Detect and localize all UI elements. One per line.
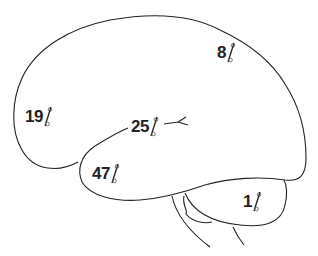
lateral-sulcus [164,117,188,125]
percent-icon [149,118,159,136]
region-value: 19 [25,107,43,126]
region-value: 8 [217,43,226,62]
region-label-temporal: 47 [92,165,120,183]
region-value: 1 [243,192,252,211]
region-label-lateral-sulcus: 25 [131,118,159,136]
percent-icon [110,165,120,183]
region-value: 47 [92,164,110,183]
region-label-frontal: 19 [25,108,53,126]
percent-icon [252,193,262,211]
region-label-cerebellum: 1 [243,193,262,211]
percent-icon [226,44,236,62]
brain-outline [0,0,318,256]
region-label-parietal: 8 [217,44,236,62]
cerebrum-outline [14,16,306,201]
brainstem-outline [172,196,244,247]
region-value: 25 [131,117,149,136]
percent-icon [43,108,53,126]
